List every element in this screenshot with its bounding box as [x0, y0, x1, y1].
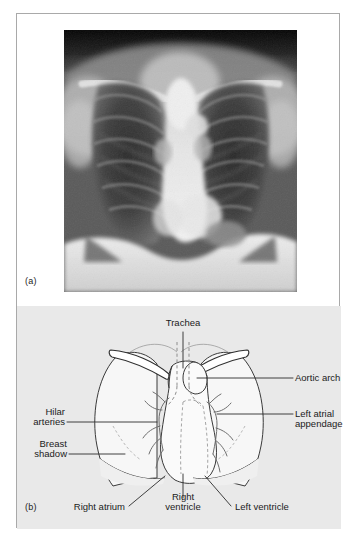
chest-xray-svg	[64, 30, 297, 292]
label-aortic-arch: Aortic arch	[295, 373, 340, 384]
label-right-atrium: Right atrium	[41, 502, 125, 513]
label-left-atrial-appendage-line2: appendage	[295, 419, 343, 430]
chest-xray-image	[64, 30, 297, 292]
figure-frame: (a)	[16, 13, 340, 528]
label-breast-shadow-line2: shadow	[17, 449, 67, 460]
label-right-ventricle-line2: ventricle	[157, 502, 209, 513]
panel-a-label: (a)	[25, 276, 37, 287]
label-hilar-arteries-line2: arteries	[17, 417, 65, 428]
label-trachea: Trachea	[157, 318, 209, 329]
label-left-ventricle: Left ventricle	[235, 502, 289, 513]
panel-b-label: (b)	[25, 502, 37, 513]
panel-a-radiograph: (a)	[17, 14, 341, 306]
panel-b-diagram: Trachea Aortic arch Left atrial appendag…	[17, 306, 341, 529]
figure-root: (a)	[0, 0, 355, 542]
